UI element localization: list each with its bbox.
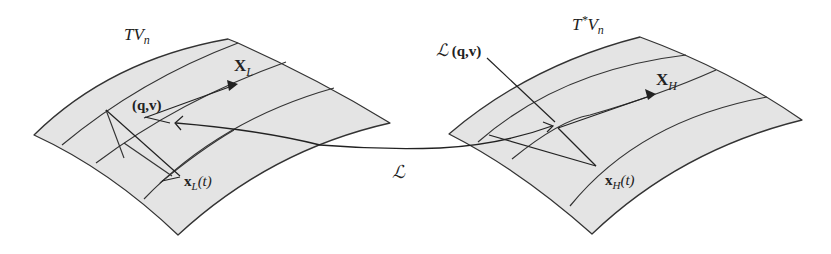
left-manifold-label: TVn: [124, 25, 150, 47]
left-point-label: (q,v): [132, 97, 162, 114]
left-manifold-surface: [34, 39, 390, 235]
right-manifold-surface: [449, 37, 802, 234]
left-surface-patch: [34, 39, 390, 235]
legendre-map-label: ℒ: [392, 162, 406, 182]
right-manifold-label: T*Vn: [572, 13, 604, 37]
legendre-transform-diagram: TVn XL (q,v) xL(t) ℒ T*Vn ℒ (q,v) XH xH(…: [0, 0, 831, 254]
right-point-label: ℒ (q,v): [436, 41, 481, 60]
